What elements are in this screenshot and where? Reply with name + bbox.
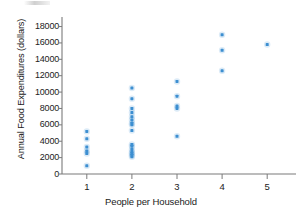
data-point [266,43,269,46]
x-axis-tick-label: 5 [257,182,277,192]
x-axis-tick-label: 2 [122,182,142,192]
data-points [84,32,271,169]
x-axis-tick-label: 4 [212,182,232,192]
data-point [85,164,88,167]
data-point [85,137,88,140]
data-point [176,80,179,83]
x-axis-title: People per Household [0,196,302,207]
x-axis-tick-label: 3 [167,182,187,192]
x-axis-tick-label: 1 [77,182,97,192]
data-point [130,97,133,100]
data-point [221,33,224,36]
data-point [176,105,179,108]
data-point [176,135,179,138]
data-point [85,130,88,133]
data-point [221,49,224,52]
data-point [130,107,133,110]
data-point [221,69,224,72]
data-point [85,145,88,148]
data-point [176,95,179,98]
scatter-chart: Annual Food Expenditures (dollars) 02000… [0,0,302,214]
data-point [130,86,133,89]
data-point [130,129,133,132]
data-point [130,143,133,146]
